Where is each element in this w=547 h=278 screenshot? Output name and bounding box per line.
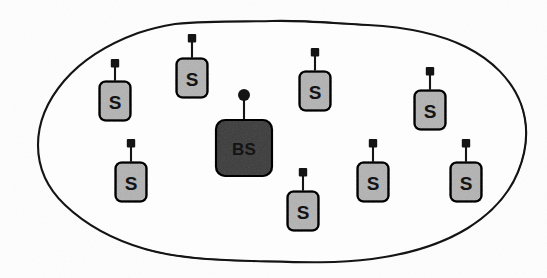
- sensor-node-1-label: S: [109, 92, 122, 113]
- sensor-node-8-label: S: [460, 173, 473, 194]
- sensor-field-boundary: [38, 21, 526, 262]
- diagram-stage: SSSSSSSS BS: [0, 0, 547, 278]
- sensor-node-1-antenna-head-square: [111, 59, 119, 67]
- sensor-node-3-antenna-head-square: [311, 48, 319, 56]
- sensor-node-3-label: S: [309, 82, 322, 103]
- sensor-node-5-antenna-head-square: [127, 139, 135, 147]
- sensor-node-6-antenna-head-square: [299, 168, 307, 176]
- sensor-node-2-antenna-head-square: [188, 34, 196, 42]
- sensor-node-7-antenna-head-square: [369, 139, 377, 147]
- sensor-node-7-label: S: [367, 173, 380, 194]
- network-topology-diagram: SSSSSSSS BS: [0, 0, 547, 278]
- sensor-node-4-antenna-head-square: [426, 67, 434, 75]
- base-station-node-label: BS: [232, 140, 256, 159]
- sensor-node-8-antenna-head-square: [462, 139, 470, 147]
- base-station-node-antenna-head-round: [238, 89, 250, 101]
- sensor-node-4-label: S: [424, 101, 437, 122]
- sensor-node-2-label: S: [186, 69, 199, 90]
- sensor-node-6-label: S: [297, 202, 310, 223]
- sensor-node-5-label: S: [125, 173, 138, 194]
